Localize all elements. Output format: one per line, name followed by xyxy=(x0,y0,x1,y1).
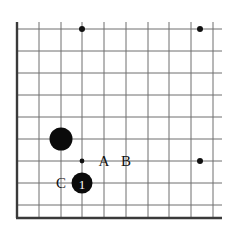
label-b: B xyxy=(121,154,131,169)
label-c: C xyxy=(56,176,66,191)
intersection-dot xyxy=(80,159,85,164)
star-right-icon xyxy=(197,158,203,164)
black-stone-plain[interactable] xyxy=(50,128,73,151)
label-a: A xyxy=(99,154,110,169)
board-grid xyxy=(0,0,229,235)
stone-move-number: 1 xyxy=(79,177,86,190)
star-top-left-icon xyxy=(79,26,85,32)
star-top-right-icon xyxy=(197,26,203,32)
go-board-diagram: 1ABC xyxy=(0,0,229,235)
